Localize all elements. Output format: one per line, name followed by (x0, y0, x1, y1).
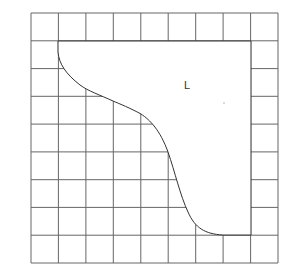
dot-marker (223, 102, 224, 103)
region-label: L (184, 79, 190, 91)
grid-figure (0, 0, 289, 278)
grid-lines (31, 13, 278, 263)
region-boundary (58, 41, 251, 235)
